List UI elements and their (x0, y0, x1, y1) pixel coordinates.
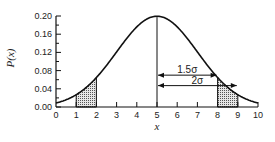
annotation-label: 2σ (192, 75, 205, 86)
x-tick-label: 1 (74, 110, 79, 120)
y-tick-label: 0.04 (34, 84, 52, 94)
x-tick-label: 4 (134, 110, 139, 120)
x-axis-label: x (154, 120, 160, 132)
x-tick-label: 6 (175, 110, 180, 120)
y-tick-label: 0.16 (34, 29, 52, 39)
y-tick-label: 0.08 (34, 66, 52, 76)
x-tick-label: 3 (114, 110, 119, 120)
x-tick-label: 0 (53, 110, 58, 120)
y-axis-label: P(x) (4, 48, 17, 68)
y-tick-label: 0.20 (34, 11, 52, 21)
gaussian-chart: 0.000.040.080.120.160.20012345678910 1.5… (0, 0, 275, 142)
annotation-label: 1.5σ (177, 64, 198, 75)
x-tick-label: 10 (253, 110, 263, 120)
x-tick-label: 7 (195, 110, 200, 120)
x-tick-label: 2 (94, 110, 99, 120)
x-tick-label: 5 (154, 110, 159, 120)
y-tick-label: 0.00 (34, 102, 52, 112)
x-tick-label: 9 (235, 110, 240, 120)
y-tick-label: 0.12 (34, 47, 52, 57)
x-tick-label: 8 (215, 110, 220, 120)
